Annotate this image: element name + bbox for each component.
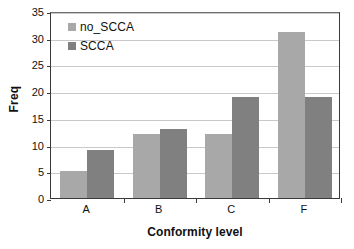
legend-swatch-icon <box>68 42 76 50</box>
legend-item: no_SCCA <box>68 20 134 34</box>
x-axis-tick-label: C <box>227 203 235 215</box>
bar-chart: Freq 05101520253035 ABCF Conformity leve… <box>0 0 354 249</box>
bar <box>133 134 160 198</box>
y-axis-tick-label: 30 <box>32 33 44 45</box>
bar <box>205 134 232 198</box>
y-axis-title: Freq <box>7 69 21 129</box>
x-axis-tick-label: F <box>300 203 307 215</box>
bar <box>60 171 87 198</box>
legend-swatch-icon <box>68 23 76 31</box>
y-axis-tick-label: 20 <box>32 86 44 98</box>
legend: no_SCCASCCA <box>68 20 134 53</box>
y-axis-tick-label: 25 <box>32 59 44 71</box>
legend-item: SCCA <box>68 39 134 53</box>
y-axis-tick-label: 15 <box>32 113 44 125</box>
bar <box>305 97 332 199</box>
legend-label: no_SCCA <box>80 20 134 34</box>
bar <box>232 97 259 199</box>
bar <box>160 129 187 198</box>
legend-label: SCCA <box>80 39 114 53</box>
y-axis-tick-label: 10 <box>32 140 44 152</box>
y-axis-tick-label: 5 <box>38 166 44 178</box>
bar <box>87 150 114 198</box>
x-axis-tickmark <box>341 198 342 203</box>
y-axis-tick-label: 0 <box>38 193 44 205</box>
x-axis-title: Conformity level <box>50 225 340 239</box>
x-axis-tick-labels: ABCF <box>50 203 340 219</box>
y-axis-tick-label: 35 <box>32 6 44 18</box>
x-axis-tick-label: A <box>83 203 90 215</box>
y-axis-tick-labels: 05101520253035 <box>22 12 44 199</box>
x-axis-tick-label: B <box>155 203 162 215</box>
bar <box>278 32 305 198</box>
y-axis-tickmark <box>47 200 51 201</box>
